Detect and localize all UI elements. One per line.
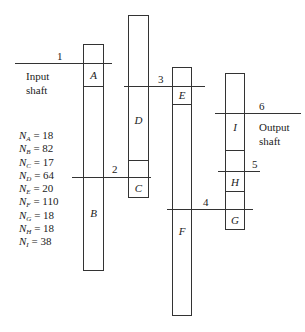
shaft-3-line [124,86,205,87]
tooth-count-H: NH = 18 [19,222,58,235]
gear-DC-column [128,15,149,198]
shaft-2-label: 2 [112,163,118,175]
shaft-5-label: 5 [252,158,258,170]
tooth-count-A: NA = 18 [19,129,58,142]
shaft-6-line [215,113,301,114]
gear-C-label: C [128,182,149,194]
tooth-count-G: NG = 18 [19,209,58,222]
tooth-count-E: NE = 20 [19,182,58,195]
gear-B-label: B [83,207,104,219]
gear-E-label: E [172,89,192,101]
tooth-count-F: NF = 110 [19,195,58,208]
output-shaft-label-2: shaft [259,135,280,147]
gear-A-separator [83,86,104,87]
gear-F-label: F [172,225,192,237]
shaft-2-line [72,177,151,178]
shaft-6-label: 6 [259,100,265,112]
gear-G-label: G [225,214,245,226]
tooth-count-B: NB = 82 [19,142,58,155]
gear-D-label: D [128,114,149,126]
shaft-5-line [218,171,260,172]
shaft-1-label: 1 [57,50,63,62]
gear-H-label: H [225,176,245,188]
shaft-3-label: 3 [158,73,164,85]
output-shaft-label-1: Output [259,121,290,133]
gear-A-label: A [83,69,104,81]
input-shaft-label-1: Input [26,70,49,82]
input-shaft-label-2: shaft [26,84,47,96]
gear-I-label: I [225,121,245,133]
gear-D-separator [128,160,149,161]
gear-E-separator [172,104,192,105]
tooth-count-D: ND = 64 [19,169,58,182]
gear-I-separator [225,150,245,151]
gear-train-diagram: 1 Input shaft A B D C 2 3 E F 4 I H G 5 … [0,0,305,332]
tooth-count-C: NC = 17 [19,156,58,169]
tooth-count-I: NI = 38 [19,235,58,248]
gear-H-separator [225,191,245,192]
shaft-4-label: 4 [203,196,209,208]
gear-IHG-column [225,73,245,230]
tooth-count-list: NA = 18 NB = 82 NC = 17 ND = 64 NE = 20 … [19,129,58,249]
